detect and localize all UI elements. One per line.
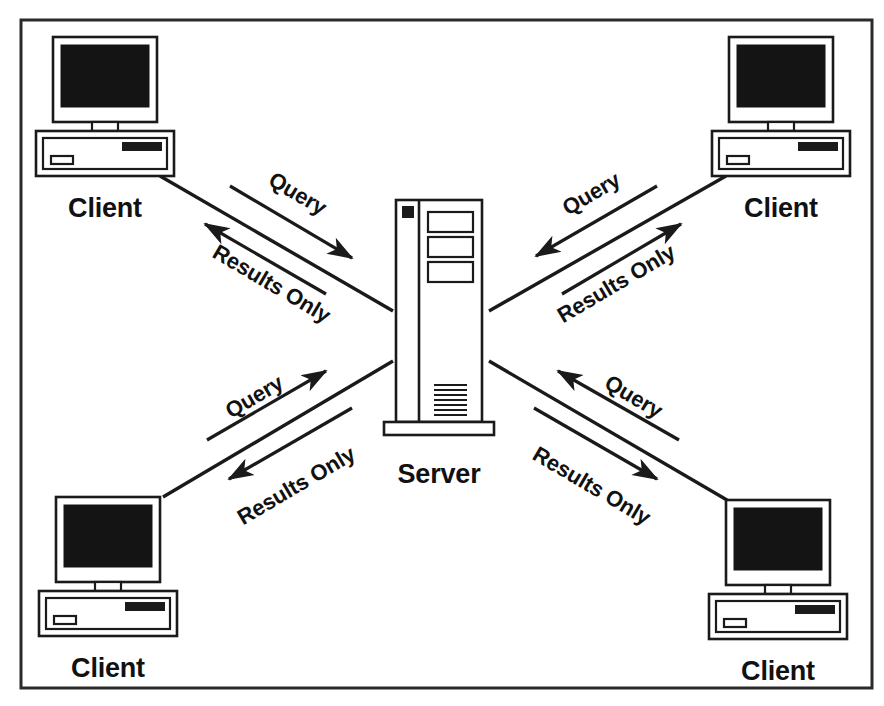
power-button[interactable]	[724, 619, 746, 627]
client-label: Client	[68, 193, 142, 223]
client-server-diagram: Client Client Client	[0, 0, 884, 706]
server-base	[384, 422, 494, 435]
monitor-screen	[737, 45, 825, 107]
drive-slot	[795, 605, 835, 614]
diagram-canvas: Client Client Client	[0, 0, 884, 706]
monitor-screen	[61, 45, 149, 107]
server-label: Server	[398, 459, 482, 489]
drive-bay	[428, 212, 473, 232]
drive-slot	[122, 142, 162, 151]
power-button[interactable]	[727, 156, 749, 164]
monitor-neck	[768, 122, 794, 131]
client-label: Client	[741, 656, 815, 686]
vent-grille	[434, 385, 467, 415]
drive-bay	[428, 237, 473, 257]
monitor-screen	[734, 508, 822, 570]
monitor-neck	[92, 122, 118, 131]
server-chassis	[396, 200, 482, 422]
client-label: Client	[71, 653, 145, 683]
drive-slot	[798, 142, 838, 151]
power-button[interactable]	[51, 156, 73, 164]
monitor-neck	[95, 582, 121, 591]
monitor-screen	[64, 505, 152, 567]
drive-slot	[125, 602, 165, 611]
power-button[interactable]	[54, 616, 76, 624]
client-label: Client	[744, 193, 818, 223]
monitor-neck	[765, 585, 791, 594]
drive-bay	[428, 262, 473, 282]
power-led	[402, 206, 414, 218]
